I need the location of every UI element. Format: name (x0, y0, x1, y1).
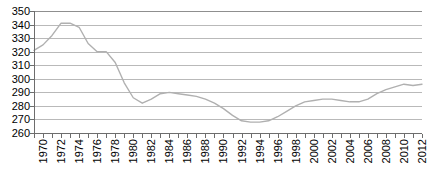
x-axis-tick-mark (115, 134, 116, 138)
y-axis-tick-label: 290 (0, 87, 30, 98)
x-axis-tick-mark (404, 134, 405, 138)
y-axis-tick-label: 340 (0, 20, 30, 31)
x-axis-tick-label: 1988 (200, 139, 211, 163)
x-axis-tick-mark (187, 134, 188, 138)
series-layer (34, 11, 422, 133)
x-axis-tick-mark (70, 134, 71, 138)
y-axis-tick-mark (30, 65, 34, 66)
x-axis-tick-mark (314, 134, 315, 138)
x-axis-tick-mark (88, 134, 89, 138)
x-axis-tick-label: 2004 (345, 139, 356, 163)
x-axis-tick-mark (79, 134, 80, 138)
x-axis-tick-mark (260, 134, 261, 138)
x-axis-tick-label: 1972 (56, 139, 67, 163)
y-axis-tick-mark (30, 52, 34, 53)
x-axis-tick-label: 2002 (327, 139, 338, 163)
x-axis-tick-label: 1982 (146, 139, 157, 163)
x-axis-tick-label: 1992 (237, 139, 248, 163)
x-axis-tick-mark (305, 134, 306, 138)
x-axis-tick-label: 1970 (38, 139, 49, 163)
y-axis-tick-label: 260 (0, 128, 30, 139)
x-axis-tick-label: 1990 (218, 139, 229, 163)
x-axis-tick-mark (223, 134, 224, 138)
x-axis-tick-mark (124, 134, 125, 138)
x-axis-tick-label: 2006 (363, 139, 374, 163)
x-axis-tick-label: 1998 (291, 139, 302, 163)
x-axis-tick-mark (323, 134, 324, 138)
x-axis-tick-mark (151, 134, 152, 138)
x-axis-tick-mark (233, 134, 234, 138)
x-axis-tick-label: 2000 (309, 139, 320, 163)
y-axis-tick-mark (30, 106, 34, 107)
x-axis-tick-mark (341, 134, 342, 138)
x-axis-tick-label: 1986 (182, 139, 193, 163)
x-axis-tick-mark (269, 134, 270, 138)
x-axis-tick-mark (52, 134, 53, 138)
x-axis-tick-label: 1980 (128, 139, 139, 163)
x-axis-tick-label: 1974 (74, 139, 85, 163)
x-axis-tick-mark (422, 134, 423, 138)
y-axis-tick-label: 320 (0, 47, 30, 58)
x-axis-tick-labels: 1970197219741976197819801982198419861988… (34, 139, 422, 183)
x-axis-tick-label: 1984 (164, 139, 175, 163)
x-axis-tick-mark (169, 134, 170, 138)
x-axis-tick-mark (160, 134, 161, 138)
x-axis-tick-mark (413, 134, 414, 138)
x-axis-tick-mark (278, 134, 279, 138)
x-axis-tick-label: 1976 (92, 139, 103, 163)
x-axis-tick-label: 1994 (255, 139, 266, 163)
y-axis-tick-mark (30, 92, 34, 93)
series-line (34, 23, 422, 122)
x-axis-tick-mark (242, 134, 243, 138)
y-axis-tick-mark (30, 25, 34, 26)
y-axis-tick-label: 270 (0, 114, 30, 125)
x-axis-tick-mark (205, 134, 206, 138)
y-axis-tick-label: 350 (0, 6, 30, 17)
x-axis-tick-mark (296, 134, 297, 138)
x-axis-tick-label: 1978 (110, 139, 121, 163)
x-axis-tick-mark (332, 134, 333, 138)
x-axis-tick-mark (359, 134, 360, 138)
x-axis-tick-mark (142, 134, 143, 138)
x-axis-tick-mark (61, 134, 62, 138)
y-axis-tick-mark (30, 79, 34, 80)
x-axis-tick-mark (386, 134, 387, 138)
y-axis-tick-label: 330 (0, 33, 30, 44)
y-axis-tick-label: 280 (0, 101, 30, 112)
x-axis-tick-mark (377, 134, 378, 138)
x-axis-tick-label: 2012 (417, 139, 428, 163)
x-axis-tick-mark (43, 134, 44, 138)
x-axis-tick-mark (133, 134, 134, 138)
y-axis-tick-labels: 350340330320310300290280270260 (0, 11, 30, 133)
y-axis-tick-mark (30, 38, 34, 39)
y-axis-tick-mark (30, 11, 34, 12)
x-axis-tick-label: 1996 (273, 139, 284, 163)
x-axis-tick-mark (106, 134, 107, 138)
plot-area (34, 11, 422, 133)
x-axis-tick-mark (350, 134, 351, 138)
x-axis-tick-mark (287, 134, 288, 138)
x-axis-tick-mark (251, 134, 252, 138)
x-axis-tick-mark (214, 134, 215, 138)
x-axis-tick-mark (196, 134, 197, 138)
x-axis-tick-mark (34, 134, 35, 138)
x-axis-tick-mark (178, 134, 179, 138)
y-axis-tick-mark (30, 119, 34, 120)
x-axis-tick-label: 2008 (381, 139, 392, 163)
x-axis-tick-mark (97, 134, 98, 138)
y-axis-tick-label: 310 (0, 60, 30, 71)
y-axis-tick-label: 300 (0, 74, 30, 85)
x-axis-tick-mark (368, 134, 369, 138)
x-axis-tick-label: 2010 (399, 139, 410, 163)
y-axis-line (34, 11, 35, 133)
x-axis-tick-mark (395, 134, 396, 138)
